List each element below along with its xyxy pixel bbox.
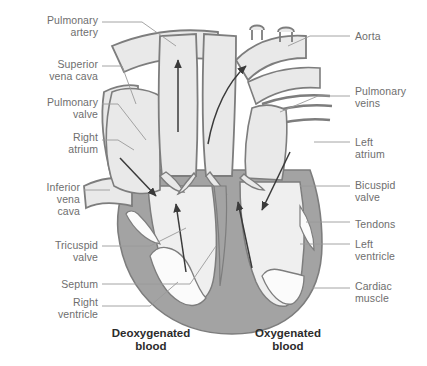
- label-tricuspid-valve: Tricuspid valve: [18, 239, 98, 263]
- label-left-ventricle: Left ventricle: [355, 238, 425, 262]
- label-pulmonary-artery: Pulmonary artery: [18, 14, 98, 38]
- heart-diagram-figure: Pulmonary arterySuperior vena cavaPulmon…: [0, 0, 427, 366]
- label-left-atrium: Left atrium: [355, 136, 425, 160]
- label-bicuspid-valve: Bicuspid valve: [355, 179, 425, 203]
- label-right-atrium: Right atrium: [18, 131, 98, 155]
- label-cardiac-muscle: Cardiac muscle: [355, 280, 425, 304]
- caption-deoxygenated-blood: Deoxygenated blood: [96, 327, 206, 353]
- label-septum: Septum: [18, 278, 98, 290]
- label-right-ventricle: Right ventricle: [18, 296, 98, 320]
- label-aorta: Aorta: [355, 30, 425, 42]
- caption-oxygenated-blood: Oxygenated blood: [238, 327, 338, 353]
- label-pulmonary-veins: Pulmonary veins: [355, 85, 425, 109]
- label-inferior-vena-cava: Inferior vena cava: [10, 181, 80, 218]
- label-superior-vena-cava: Superior vena cava: [18, 58, 98, 82]
- label-tendons: Tendons: [355, 218, 425, 230]
- label-pulmonary-valve: Pulmonary valve: [18, 96, 98, 120]
